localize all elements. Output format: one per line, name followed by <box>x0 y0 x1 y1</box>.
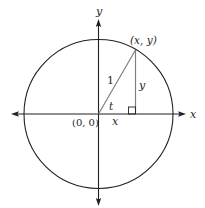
right-angle-marker <box>129 107 136 114</box>
unit-circle-diagram: y x (x, y) 1 y t x (0, 0) <box>0 0 205 208</box>
point-label: (x, y) <box>130 34 157 46</box>
horizontal-leg-label: x <box>112 115 119 128</box>
origin-label: (0, 0) <box>72 117 99 128</box>
angle-label: t <box>109 100 114 112</box>
right-triangle <box>99 50 136 114</box>
x-axis-label: x <box>190 108 197 121</box>
y-axis <box>96 19 101 206</box>
hypotenuse <box>99 50 136 114</box>
y-axis-label: y <box>95 5 103 18</box>
vertical-leg-label: y <box>138 79 146 92</box>
radius-label: 1 <box>107 74 114 87</box>
